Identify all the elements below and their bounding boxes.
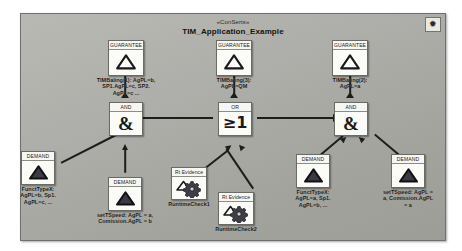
and-gate-tile-label: AND <box>335 103 367 112</box>
runtime-evidence-gear-icon <box>219 202 253 225</box>
or-gate-tile[interactable]: OR ≥1 <box>218 102 252 136</box>
page-title: TIM_Application_Example <box>21 27 445 36</box>
evidence-tile-rt2[interactable]: Rt Evidence <box>218 192 254 225</box>
and-gate-tile-right[interactable]: AND & <box>334 102 368 136</box>
guarantee-caption-g1: TIMBaling(1): AgPL=b, SP1.AgPL=c, SP2. A… <box>95 77 157 96</box>
demand-triangle-icon <box>109 187 141 211</box>
guarantee-triangle-icon <box>109 50 143 76</box>
guarantee-tile-label: GUARANTEE <box>217 41 251 50</box>
demand-triangle-svg <box>302 167 325 184</box>
guarantee-tile-g2[interactable]: GUARANTEE <box>332 40 368 76</box>
guarantee-node-g3[interactable]: GUARANTEE TIMBaling(3): AgPL=QM <box>206 40 262 90</box>
guarantee-node-g1[interactable]: GUARANTEE TIMBaling(1): AgPL=b, SP1.AgPL… <box>95 40 157 96</box>
demand-tile-label: DEMAND <box>109 178 141 187</box>
demand-triangle-svg <box>27 164 50 181</box>
or-gate-tile-label: OR <box>219 103 251 112</box>
or-gate-symbol: ≥1 <box>223 115 248 131</box>
and-gate-symbol: & <box>118 114 134 133</box>
demand-tile-label: DEMAND <box>22 152 54 161</box>
demand-tile-d2[interactable]: DEMAND <box>108 177 142 211</box>
diagram-frame: «ConSerts» TIM_Application_Example ✹ <box>20 13 446 241</box>
edge-rt2-to-or <box>225 149 253 190</box>
guarantee-tile-label: GUARANTEE <box>333 41 367 50</box>
evidence-tile-label: Rt Evidence <box>172 168 206 177</box>
demand-node-d4[interactable]: DEMAND setTSpeed: AgPL = a, Comission.Ag… <box>373 154 443 208</box>
guarantee-node-g2[interactable]: GUARANTEE TIMBaling(2): AgPL=a <box>322 40 378 90</box>
sparkle-glyph: ✹ <box>429 20 437 29</box>
evidence-caption-rt2: RuntimeCheck2 <box>207 226 265 232</box>
and-gate-tile-left[interactable]: AND & <box>109 102 143 136</box>
demand-node-d1[interactable]: DEMAND FunctTypeX: AgPL=b, Sp1. AgPL=c, … <box>9 151 67 205</box>
guarantee-triangle-icon <box>333 50 367 76</box>
arrowhead-g3 <box>230 92 238 98</box>
gate-node-and-left[interactable]: AND & <box>109 102 143 136</box>
guarantee-triangle-svg <box>222 53 246 71</box>
demand-caption-d4: setTSpeed: AgPL = a, Comission.AgPL = a <box>373 189 443 208</box>
or-gate-icon: ≥1 <box>219 112 251 136</box>
demand-tile-label: DEMAND <box>392 155 424 164</box>
guarantee-caption-g3: TIMBaling(3): AgPL=QM <box>206 77 262 90</box>
demand-tile-label: DEMAND <box>297 155 329 164</box>
demand-triangle-icon <box>22 161 54 185</box>
consert-diagram-canvas: «ConSerts» TIM_Application_Example ✹ <box>0 0 462 251</box>
demand-caption-d1: FunctTypeX: AgPL=b, Sp1. AgPL=c, ... <box>9 186 67 205</box>
evidence-node-rt2[interactable]: Rt Evidence RuntimeCheck2 <box>207 192 265 232</box>
arrowhead-and-left-from-d2 <box>122 144 128 150</box>
guarantee-tile-g3[interactable]: GUARANTEE <box>216 40 252 76</box>
and-gate-tile-label: AND <box>110 103 142 112</box>
demand-triangle-svg <box>114 190 137 207</box>
guarantee-tile-label: GUARANTEE <box>109 41 143 50</box>
guarantee-triangle-svg <box>114 53 138 71</box>
sparkle-icon[interactable]: ✹ <box>425 17 441 32</box>
demand-node-d3[interactable]: DEMAND FunctTypeX: AgPL=a, Sp1. AgPL=b, … <box>283 154 343 208</box>
evidence-tile-rt1[interactable]: Rt Evidence <box>171 167 207 200</box>
guarantee-triangle-icon <box>217 50 251 76</box>
edge-d1-to-and-left <box>61 132 121 163</box>
runtime-evidence-gear-icon <box>172 177 206 200</box>
runtime-evidence-gear-svg <box>222 203 250 223</box>
demand-triangle-svg <box>397 167 420 184</box>
edge-or-to-and-right <box>257 117 333 119</box>
guarantee-tile-g1[interactable]: GUARANTEE <box>108 40 144 76</box>
demand-triangle-icon <box>392 164 424 188</box>
arrowhead-or-from-rt2 <box>237 143 245 151</box>
demand-tile-d3[interactable]: DEMAND <box>296 154 330 188</box>
and-gate-icon: & <box>110 112 142 136</box>
edge-d2-to-and-left <box>124 149 126 173</box>
guarantee-caption-g2: TIMBaling(2): AgPL=a <box>322 77 378 90</box>
guarantee-triangle-svg <box>338 53 362 71</box>
arrowhead-g2 <box>346 92 354 98</box>
arrowhead-and-right-from-d3 <box>340 135 348 143</box>
demand-tile-d4[interactable]: DEMAND <box>391 154 425 188</box>
demand-tile-d1[interactable]: DEMAND <box>21 151 55 185</box>
diagram-stereotype: «ConSerts» <box>21 19 445 25</box>
gate-node-and-right[interactable]: AND & <box>334 102 368 136</box>
evidence-tile-label: Rt Evidence <box>219 193 253 202</box>
runtime-evidence-gear-svg <box>175 178 203 198</box>
demand-caption-d3: FunctTypeX: AgPL=a, Sp1. AgPL=b, ... <box>283 189 343 208</box>
demand-caption-d2: setTSpeed: AgPL = a, Comission.AgPL = b <box>69 212 181 225</box>
and-gate-symbol: & <box>343 114 359 133</box>
arrowhead-and-right-from-d4 <box>357 135 365 143</box>
edge-or-to-and-left <box>139 117 213 119</box>
and-gate-icon: & <box>335 112 367 136</box>
gate-node-or[interactable]: OR ≥1 <box>218 102 252 136</box>
demand-triangle-icon <box>297 164 329 188</box>
